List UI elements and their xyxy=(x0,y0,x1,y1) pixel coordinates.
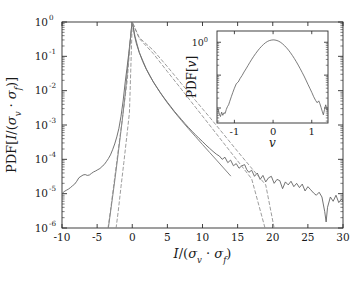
x-tick-label: -5 xyxy=(92,231,102,243)
inset-plot-frame xyxy=(217,31,328,123)
y-tick-label: 10 xyxy=(35,50,48,62)
y-tick-label: 10 xyxy=(35,84,48,96)
y-tick-exponent: 0 xyxy=(49,13,54,22)
x-tick-label: 10 xyxy=(196,231,209,243)
y-tick-label: 10 xyxy=(35,187,48,199)
y-axis-label: PDF[I/(σv · σf)] xyxy=(4,77,23,173)
y-tick-label: 10 xyxy=(35,119,48,131)
y-tick-label: 10 xyxy=(35,16,48,28)
x-tick-label: -10 xyxy=(54,231,71,243)
x-tick-label: 5 xyxy=(164,231,171,243)
inset-y-axis-label: PDF[v] xyxy=(185,56,199,98)
x-tick-label: 0 xyxy=(129,231,136,243)
y-tick-exponent: -3 xyxy=(49,116,56,125)
x-tick-label: 30 xyxy=(336,231,349,243)
y-tick-exponent: -2 xyxy=(49,81,56,90)
y-tick-label: 10 xyxy=(35,153,48,165)
y-tick-exponent: -1 xyxy=(49,47,56,56)
x-tick-label: 20 xyxy=(266,231,279,243)
chart-svg: -10-505101520253010010-110-210-310-410-5… xyxy=(0,0,360,282)
y-tick-exponent: -4 xyxy=(49,150,56,159)
y-tick-exponent: -5 xyxy=(49,184,56,193)
inset-x-tick-label: 1 xyxy=(309,126,315,137)
figure-container: -10-505101520253010010-110-210-310-410-5… xyxy=(0,0,360,282)
x-tick-label: 15 xyxy=(231,231,244,243)
inset-x-tick-label: -1 xyxy=(230,126,240,137)
x-tick-label: 25 xyxy=(301,231,314,243)
inset-x-axis-label: v xyxy=(269,136,276,150)
y-tick-label: 10 xyxy=(35,222,48,234)
x-axis-label: I/(σv · σf) xyxy=(173,246,232,265)
y-tick-exponent: -6 xyxy=(49,219,56,228)
